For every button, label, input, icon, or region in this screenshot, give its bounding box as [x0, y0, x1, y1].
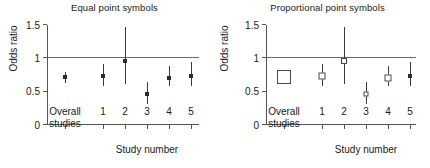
x-axis-tick [191, 125, 192, 129]
x-axis-tick-label-line: Overall [49, 106, 81, 118]
x-axis-tick-label: 5 [188, 106, 194, 117]
y-axis-tick [262, 91, 266, 92]
panel-title-left: Equal point symbols [0, 2, 215, 13]
y-axis-line-left [47, 25, 48, 125]
forest-plot-figure: Equal point symbols Odds ratio 00.511.5 … [0, 0, 430, 168]
panel-title-right: Proportional point symbols [215, 2, 430, 13]
y-axis-line-right [266, 25, 267, 125]
x-axis-tick-label-line: studies [49, 118, 81, 130]
point-estimate-marker [319, 72, 326, 79]
point-estimate-marker [63, 75, 67, 79]
x-axis-title-right: Study number [306, 144, 426, 155]
panel-proportional-point-symbols: Proportional point symbols Odds ratio 00… [215, 0, 430, 168]
x-axis-tick-label: 4 [385, 106, 391, 117]
point-estimate-marker [101, 74, 105, 78]
point-estimate-marker [341, 58, 347, 64]
y-axis-tick-label: 0.5 [245, 87, 259, 97]
y-axis-tick [43, 124, 47, 125]
confidence-interval-bar [344, 27, 345, 84]
x-axis-tick-label: 5 [407, 106, 413, 117]
y-axis-tick-label: 0.5 [26, 87, 40, 97]
y-axis-tick-label: 1.5 [26, 21, 40, 31]
x-axis-tick-label: 4 [166, 106, 172, 117]
x-axis-tick-label: 3 [363, 106, 369, 117]
x-axis-tick-label: 2 [341, 106, 347, 117]
y-axis-tick [43, 24, 47, 25]
y-axis-title-left: Odds ratio [8, 25, 19, 71]
point-estimate-marker [123, 59, 127, 63]
confidence-interval-bar [125, 27, 126, 84]
y-axis-tick [43, 91, 47, 92]
x-axis-tick-label: 1 [100, 106, 106, 117]
point-estimate-marker [364, 92, 369, 97]
x-axis-tick [322, 125, 323, 129]
point-estimate-marker [408, 74, 412, 78]
x-axis-tick-label: 1 [319, 106, 325, 117]
point-estimate-marker [385, 74, 392, 81]
x-axis-tick [344, 125, 345, 129]
point-estimate-marker [145, 92, 149, 96]
x-axis-tick [388, 125, 389, 129]
x-axis-tick-label: 3 [144, 106, 150, 117]
y-axis-tick-label: 1.5 [245, 21, 259, 31]
x-axis-tick [366, 125, 367, 129]
point-estimate-marker [189, 74, 193, 78]
x-axis-title-left: Study number [87, 144, 207, 155]
x-axis-tick-label: 2 [122, 106, 128, 117]
x-axis-tick [169, 125, 170, 129]
x-axis-tick-label: Overallstudies [49, 106, 81, 129]
x-axis-tick [410, 125, 411, 129]
y-axis-title-right: Odds ratio [219, 25, 230, 71]
panel-equal-point-symbols: Equal point symbols Odds ratio 00.511.5 … [0, 0, 215, 168]
x-axis-tick-label-line: Overall [268, 106, 300, 118]
y-axis-tick-label: 1 [253, 54, 259, 64]
point-estimate-marker [167, 76, 171, 80]
y-axis-tick [262, 124, 266, 125]
y-axis-tick-label: 0 [253, 121, 259, 131]
x-axis-tick [147, 125, 148, 129]
y-axis-tick [262, 24, 266, 25]
y-axis-tick-label: 0 [34, 121, 40, 131]
x-axis-tick-label: Overallstudies [268, 106, 300, 129]
y-axis-tick-label: 1 [34, 54, 40, 64]
x-axis-tick [103, 125, 104, 129]
point-estimate-marker [277, 70, 291, 84]
x-axis-tick [125, 125, 126, 129]
x-axis-tick-label-line: studies [268, 118, 300, 130]
